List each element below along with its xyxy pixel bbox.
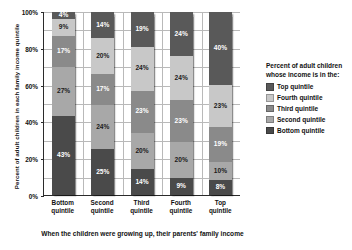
x-tick-label: Thirdquintile [122, 199, 161, 216]
x-tick-label: Secondquintile [82, 199, 121, 216]
bar-segment[interactable]: 40% [209, 12, 232, 85]
stacked-bar[interactable]: 24%24%23%20%9% [170, 12, 193, 195]
bar-segment[interactable]: 17% [91, 74, 114, 105]
bar-segment-label: 14% [96, 22, 109, 29]
bar-segment-label: 8% [216, 184, 226, 191]
legend-label: Top quintile [277, 83, 313, 90]
bar-segment[interactable]: 20% [170, 142, 193, 179]
column-second-quintile[interactable]: 14%20%17%24%25% [83, 12, 122, 195]
bar-segment[interactable]: 9% [170, 178, 193, 194]
bar-segment-label: 24% [175, 31, 188, 38]
bar-segment[interactable]: 43% [52, 116, 75, 195]
stacked-columns: 4%9%17%27%43%14%20%17%24%25%19%24%23%20%… [44, 12, 240, 195]
bar-segment[interactable]: 23% [209, 85, 232, 127]
y-tick-label: 40% [25, 119, 38, 126]
bar-segment[interactable]: 19% [131, 12, 154, 47]
x-tick-label: Bottomquintile [43, 199, 82, 216]
bar-segment-label: 23% [135, 108, 148, 115]
stacked-bar[interactable]: 4%9%17%27%43% [52, 12, 75, 195]
bar-segment[interactable]: 25% [91, 149, 114, 195]
chart-page: Percent of adult children in each family… [0, 0, 352, 250]
y-axis-tick-labels: 0%20%40%60%80%100% [0, 12, 41, 196]
bar-segment-label: 43% [57, 152, 70, 159]
bar-segment[interactable]: 24% [91, 105, 114, 149]
bar-segment[interactable]: 14% [91, 12, 114, 38]
legend-swatch [266, 94, 274, 102]
legend-item[interactable]: Fourth quintile [266, 94, 352, 102]
bar-segment-label: 10% [214, 168, 227, 175]
bar-segment[interactable]: 24% [170, 56, 193, 100]
bar-segment[interactable]: 20% [91, 38, 114, 75]
bar-segment[interactable]: 10% [209, 162, 232, 180]
bar-segment-label: 17% [96, 86, 109, 93]
column-bottom-quintile[interactable]: 4%9%17%27%43% [44, 12, 83, 195]
stacked-bar[interactable]: 14%20%17%24%25% [91, 12, 114, 195]
bar-segment-label: 19% [135, 26, 148, 33]
x-axis-title: When the children were growing up, their… [20, 230, 265, 237]
legend-item[interactable]: Top quintile [266, 83, 352, 91]
legend-item[interactable]: Second quintile [266, 116, 352, 124]
bar-segment[interactable]: 24% [131, 47, 154, 91]
bar-segment-label: 9% [176, 183, 186, 190]
bar-segment[interactable]: 27% [52, 67, 75, 116]
stacked-bar[interactable]: 19%24%23%20%14% [131, 12, 154, 195]
bar-segment-label: 27% [57, 88, 70, 95]
bar-segment-label: 4% [59, 12, 69, 19]
legend-item[interactable]: Third quintile [266, 105, 352, 113]
bar-segment-label: 17% [57, 48, 70, 55]
bar-segment[interactable]: 17% [52, 36, 75, 67]
legend-items: Top quintileFourth quintileThird quintil… [266, 83, 352, 134]
bar-segment-label: 25% [96, 169, 109, 176]
x-tick-label: Topquintile [201, 199, 240, 216]
stacked-bar[interactable]: 40%23%19%10%8% [209, 12, 232, 195]
legend-swatch [266, 116, 274, 124]
bar-segment[interactable]: 24% [170, 12, 193, 56]
x-tick-label: Fourthquintile [161, 199, 200, 216]
legend-swatch [266, 105, 274, 113]
bar-segment[interactable]: 23% [131, 91, 154, 133]
bar-segment-label: 20% [135, 148, 148, 155]
y-tick-label: 60% [25, 82, 38, 89]
bar-segment[interactable]: 23% [170, 100, 193, 142]
column-third-quintile[interactable]: 19%24%23%20%14% [122, 12, 161, 195]
legend-label: Third quintile [277, 105, 318, 112]
legend-swatch [266, 127, 274, 135]
legend-item[interactable]: Bottom quintile [266, 127, 352, 135]
legend-title: Percent of adult children whose income i… [266, 62, 352, 79]
legend-swatch [266, 83, 274, 91]
bar-segment[interactable]: 8% [209, 180, 232, 195]
bar-segment-label: 20% [175, 157, 188, 164]
legend-label: Second quintile [277, 116, 325, 123]
y-tick-label: 80% [25, 45, 38, 52]
column-fourth-quintile[interactable]: 24%24%23%20%9% [162, 12, 201, 195]
legend-label: Fourth quintile [277, 94, 323, 101]
plot-area: 4%9%17%27%43%14%20%17%24%25%19%24%23%20%… [43, 12, 240, 196]
bar-segment-label: 40% [214, 45, 227, 52]
x-axis-tick-labels: BottomquintileSecondquintileThirdquintil… [43, 199, 240, 216]
bar-segment-label: 20% [96, 53, 109, 60]
bar-segment[interactable]: 4% [52, 12, 75, 19]
bar-segment-label: 23% [214, 103, 227, 110]
y-tick-mark [41, 196, 44, 197]
y-tick-label: 20% [25, 156, 38, 163]
bar-segment-label: 14% [135, 179, 148, 186]
bar-segment[interactable]: 9% [52, 19, 75, 35]
legend: Percent of adult children whose income i… [266, 62, 352, 138]
bar-segment[interactable]: 14% [131, 169, 154, 195]
bar-segment[interactable]: 20% [131, 133, 154, 170]
bar-segment[interactable]: 19% [209, 127, 232, 162]
column-top-quintile[interactable]: 40%23%19%10%8% [201, 12, 240, 195]
bar-segment-label: 24% [175, 75, 188, 82]
bar-segment-label: 24% [96, 124, 109, 131]
y-tick-label: 0% [29, 193, 38, 200]
legend-label: Bottom quintile [277, 127, 325, 134]
bar-segment-label: 9% [59, 24, 69, 31]
bar-segment-label: 23% [175, 118, 188, 125]
y-tick-label: 100% [22, 9, 38, 16]
bar-segment-label: 24% [135, 65, 148, 72]
bar-segment-label: 19% [214, 141, 227, 148]
